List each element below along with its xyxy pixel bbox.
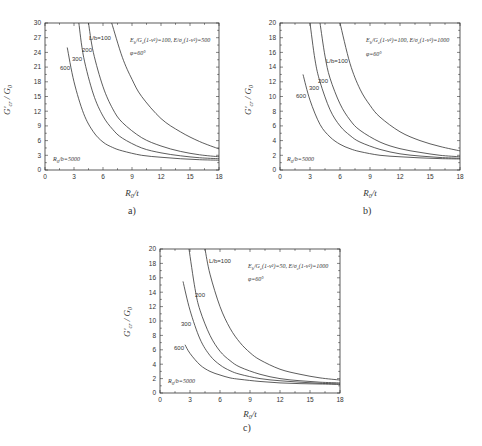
y-tick-label: 14 — [149, 289, 157, 296]
curve-label-200: 200 — [82, 47, 93, 53]
ratio-annotation: R0/b=5000 — [52, 156, 80, 164]
y-tick-label: 18 — [34, 78, 42, 85]
y-tick-label: 4 — [272, 137, 276, 144]
y-tick-label: 24 — [34, 49, 42, 56]
x-tick-label: 18 — [456, 173, 464, 180]
curve-l-b-200 — [189, 249, 340, 383]
y-tick-label: 6 — [152, 346, 156, 353]
y-tick-label: 8 — [152, 332, 156, 339]
x-tick-label: 15 — [186, 173, 194, 180]
caption-a: a) — [128, 205, 136, 216]
y-tick-label: 10 — [269, 93, 277, 100]
caption-c: c) — [243, 422, 251, 433]
curve-l-b-300 — [310, 23, 460, 158]
angle-annotation: φ=60° — [248, 276, 264, 282]
y-tick-label: 0 — [152, 389, 156, 396]
angle-annotation: φ=60° — [130, 50, 146, 56]
y-axis-label: G'cr / G0 — [2, 85, 13, 115]
ratio-annotation: R0/b=5000 — [167, 378, 195, 386]
y-tick-label: 0 — [37, 166, 41, 173]
y-tick-label: 27 — [34, 34, 42, 41]
curve-l-b-300 — [79, 23, 219, 159]
curve-l-b-600 — [185, 345, 340, 385]
x-tick-label: 9 — [248, 396, 252, 403]
x-tick-label: 15 — [306, 396, 314, 403]
curve-label-200: 200 — [195, 292, 206, 298]
curve-l-b-200 — [320, 23, 460, 157]
x-tick-label: 0 — [278, 173, 282, 180]
x-tick-label: 6 — [218, 396, 222, 403]
chart-a: 0369121518036912151821242730 G'cr / G0 R… — [0, 0, 240, 220]
curve-l-b-600 — [67, 48, 219, 161]
y-tick-label: 12 — [34, 108, 42, 115]
x-tick-label: 18 — [336, 396, 344, 403]
plot-frame — [280, 23, 460, 170]
y-tick-label: 20 — [149, 245, 157, 252]
curve-l-b-300 — [183, 281, 340, 384]
ratio-annotation: R0/b=5000 — [286, 156, 314, 164]
curve-label-100: L/b=100 — [209, 258, 232, 264]
y-tick-label: 12 — [149, 303, 157, 310]
caption-b: b) — [363, 205, 371, 216]
y-tick-label: 6 — [37, 137, 41, 144]
curve-label-300: 300 — [181, 321, 192, 327]
chart-panel-b: 036912151802468101214161820 G'cr / G0 R0… — [245, 0, 482, 220]
y-tick-label: 30 — [34, 19, 42, 26]
x-tick-label: 0 — [158, 396, 162, 403]
curve-label-600: 600 — [174, 345, 185, 351]
y-tick-label: 21 — [34, 63, 42, 70]
plot-frame — [45, 23, 219, 170]
y-tick-label: 4 — [152, 361, 156, 368]
y-tick-label: 15 — [34, 93, 42, 100]
chart-b: 036912151802468101214161820 G'cr / G0 R0… — [245, 0, 482, 220]
x-tick-label: 3 — [72, 173, 76, 180]
x-tick-label: 12 — [396, 173, 404, 180]
y-tick-label: 3 — [37, 152, 41, 159]
angle-annotation: φ=60° — [366, 51, 382, 57]
y-tick-label: 6 — [272, 122, 276, 129]
y-tick-label: 2 — [272, 152, 276, 159]
y-tick-label: 16 — [149, 274, 157, 281]
x-tick-label: 9 — [368, 173, 372, 180]
x-tick-label: 9 — [130, 173, 134, 180]
y-tick-label: 16 — [269, 49, 277, 56]
parameter-annotation: Eb/Gc(1-ν²)=100, E/σc(1-ν²)=500 — [129, 37, 210, 45]
x-axis-label: R0/t — [242, 409, 257, 420]
y-tick-label: 0 — [272, 166, 276, 173]
curve-label-100: L/b=100 — [89, 35, 112, 41]
curve-l-b-600 — [303, 74, 460, 159]
parameter-annotation: Eb/Gc(1-ν²)=100, E/σc(1-ν²)=1000 — [365, 37, 449, 45]
x-tick-label: 12 — [157, 173, 165, 180]
y-tick-label: 20 — [269, 19, 277, 26]
chart-c: 036912151802468101214161820 G'cr / G0 R0… — [120, 226, 370, 446]
x-tick-label: 0 — [43, 173, 47, 180]
curve-label-100: L/b=100 — [326, 58, 349, 64]
x-tick-label: 6 — [101, 173, 105, 180]
chart-b-curves — [303, 23, 460, 159]
y-tick-label: 9 — [37, 122, 41, 129]
x-tick-label: 3 — [188, 396, 192, 403]
y-axis-label: G'cr / G0 — [122, 307, 133, 337]
y-axis-label: G'cr / G0 — [243, 85, 254, 115]
y-tick-label: 18 — [269, 34, 277, 41]
chart-panel-a: 0369121518036912151821242730 G'cr / G0 R… — [0, 0, 240, 220]
curve-label-200: 200 — [318, 78, 329, 84]
y-tick-label: 18 — [149, 260, 157, 267]
curve-label-300: 300 — [72, 56, 83, 62]
y-tick-label: 14 — [269, 63, 277, 70]
x-tick-label: 6 — [338, 173, 342, 180]
chart-panel-c: 036912151802468101214161820 G'cr / G0 R0… — [120, 226, 370, 446]
y-tick-label: 12 — [269, 78, 277, 85]
x-axis-label: R0/t — [124, 188, 139, 199]
parameter-annotation: Eb/Gc(1-ν²)=50, E/σc(1-ν²)=1000 — [247, 263, 328, 271]
curve-label-600: 600 — [296, 93, 307, 99]
y-tick-label: 2 — [152, 375, 156, 382]
curve-l-b-200 — [89, 23, 220, 157]
x-tick-label: 3 — [308, 173, 312, 180]
curve-label-600: 600 — [60, 65, 71, 71]
y-tick-label: 8 — [272, 108, 276, 115]
y-tick-label: 10 — [149, 317, 157, 324]
x-tick-label: 12 — [276, 396, 284, 403]
x-tick-label: 15 — [426, 173, 434, 180]
x-axis-label: R0/t — [362, 188, 377, 199]
